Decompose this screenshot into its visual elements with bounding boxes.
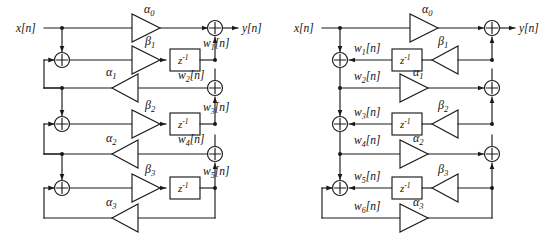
left-signal-flow-diagram: x[n] α0 y[n] β1: [0, 0, 278, 248]
right-w3-label: w3[n]: [354, 106, 380, 121]
left-beta2-label: β2: [144, 98, 156, 114]
right-gain-beta3: β3: [432, 162, 458, 202]
right-input-path: [322, 26, 484, 30]
left-w5-label: w5[n]: [203, 165, 229, 180]
left-alpha0-label: α0: [144, 2, 155, 18]
left-beta1-triangle: [132, 46, 160, 74]
figure-canvas: x[n] α0 y[n] β1: [0, 0, 556, 248]
right-beta1-label: β1: [437, 34, 448, 50]
left-adder-4: [208, 147, 223, 162]
right-gain-beta2: β2: [432, 98, 458, 138]
left-beta2-triangle: [132, 110, 160, 138]
right-alpha0-label: α0: [422, 2, 433, 18]
left-adder-2: [208, 81, 223, 96]
right-adder-2: [485, 81, 500, 96]
right-gain-beta1: β1: [432, 34, 458, 74]
left-input-tap-node: [60, 26, 64, 30]
left-beta3-triangle: [132, 174, 160, 202]
right-adder-1: [333, 53, 348, 68]
left-beta1-label: β1: [144, 34, 155, 50]
right-alpha0-triangle: [410, 14, 438, 42]
left-input-label: x[n]: [15, 22, 36, 34]
right-output-adder: [485, 21, 516, 36]
left-gain-beta3: β3: [132, 162, 160, 202]
left-beta3-label: β3: [144, 162, 155, 178]
right-beta3-label: β3: [437, 162, 448, 178]
left-delay-3: z-1: [170, 177, 200, 199]
right-adder-3: [333, 117, 348, 132]
left-input-path: [44, 26, 208, 30]
right-w4-label: w4[n]: [354, 134, 380, 149]
left-adder-1: [55, 53, 70, 68]
left-adder-5: [55, 181, 70, 196]
left-delay-1: z-1: [170, 49, 200, 71]
left-w3-label: w3[n]: [203, 101, 229, 116]
right-input-tap-node: [338, 26, 342, 30]
right-beta2-label: β2: [437, 98, 449, 114]
left-output-label: y[n]: [241, 22, 262, 35]
left-w1-label: w1[n]: [203, 37, 229, 52]
right-adder-4: [485, 147, 500, 162]
left-w2-label: w2[n]: [178, 69, 204, 84]
right-gain-alpha3: α3: [400, 195, 428, 232]
right-output-label: y[n]: [518, 22, 539, 35]
right-gain-alpha2: α2: [400, 131, 428, 168]
right-input-label: x[n]: [293, 22, 314, 34]
right-beta3-triangle: [432, 174, 458, 202]
left-alpha3-label: α3: [106, 195, 117, 211]
left-delay-2: z-1: [170, 113, 200, 135]
left-alpha1-label: α1: [106, 65, 117, 81]
left-output-adder: [208, 21, 239, 36]
right-adder-5: [333, 181, 348, 196]
right-w6-label: w6[n]: [354, 200, 380, 215]
right-w1-label: w1[n]: [354, 42, 380, 57]
right-gain-alpha0: α0: [410, 2, 438, 42]
right-alpha2-label: α2: [413, 131, 424, 147]
right-beta2-triangle: [432, 110, 458, 138]
left-gain-beta2: β2: [132, 98, 160, 138]
right-w2-label: w2[n]: [354, 70, 380, 85]
right-beta1-triangle: [432, 46, 458, 74]
left-alpha2-label: α2: [106, 131, 117, 147]
left-w4-label: w4[n]: [178, 133, 204, 148]
left-adder-3: [55, 117, 70, 132]
right-w5-label: w5[n]: [354, 170, 380, 185]
right-signal-flow-diagram: x[n] α0 y[n] w1[n] z-1: [278, 0, 556, 248]
